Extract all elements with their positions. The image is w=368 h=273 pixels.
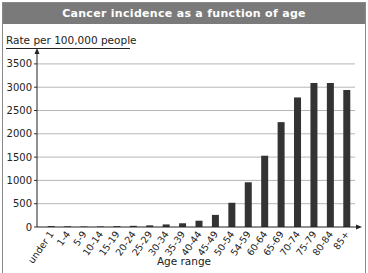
bar-80-84 [327,83,334,227]
y-tick-label: 1000 [7,175,32,186]
y-tick-label: 0 [26,222,32,233]
x-axis-label: Age range [0,255,368,267]
y-axis-arrow-icon [35,48,40,54]
y-tick-label: 3500 [7,58,32,69]
bar-54-59 [245,182,252,227]
y-tick-label: 2000 [7,128,32,139]
bar-65-69 [278,122,285,227]
bar-85+ [343,90,350,227]
bar-35-39 [179,223,186,227]
bar-40-44 [196,221,203,227]
x-axis-arrow-icon [356,225,362,230]
y-tick-label: 3000 [7,82,32,93]
bar-50-54 [228,203,235,227]
bar-70-74 [294,97,301,227]
bar-60-64 [261,156,268,227]
bar-75-79 [310,83,317,227]
y-tick-label: 1500 [7,152,32,163]
y-tick-label: 2500 [7,105,32,116]
x-tick-label: 85+ [331,229,352,252]
bar-45-49 [212,215,219,227]
y-tick-label: 500 [13,198,32,209]
x-tick-label: 1-4 [54,229,72,248]
